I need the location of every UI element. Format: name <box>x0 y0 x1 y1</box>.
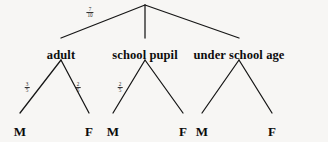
leaf-label-adult-m: M <box>14 124 26 140</box>
edge-root-to-adult <box>61 5 145 38</box>
edge-label-denominator: 5 <box>76 88 81 94</box>
edge-label-denominator: 5 <box>118 88 123 94</box>
node-label-school-pupil: school pupil <box>112 48 177 63</box>
edge-under-school-age-to-under-school-age-m <box>202 60 239 113</box>
edge-label-adult-to-m: 35 <box>25 82 30 94</box>
tree-edges <box>0 0 328 142</box>
edge-under-school-age-to-under-school-age-f <box>239 60 272 113</box>
edge-label-denominator: 5 <box>25 88 30 94</box>
leaf-label-adult-f: F <box>85 124 93 140</box>
edge-root-to-under-school-age <box>145 5 239 38</box>
edge-label-school-pupil-to-m: 25 <box>118 82 123 94</box>
edge-label-denominator: 10 <box>86 13 93 19</box>
edge-label-adult-to-f: 25 <box>76 82 81 94</box>
edge-label-root-to-adult: 710 <box>86 7 93 19</box>
edge-school-pupil-to-school-pupil-f <box>145 60 183 113</box>
leaf-label-under-school-age-f: F <box>268 124 276 140</box>
leaf-label-school-pupil-m: M <box>107 124 119 140</box>
node-label-under-school-age: under school age <box>194 48 285 63</box>
leaf-label-school-pupil-f: F <box>179 124 187 140</box>
node-label-adult: adult <box>47 48 75 63</box>
probability-tree-diagram: adultschool pupilunder school age MFMFMF… <box>0 0 328 142</box>
leaf-label-under-school-age-m: M <box>196 124 208 140</box>
